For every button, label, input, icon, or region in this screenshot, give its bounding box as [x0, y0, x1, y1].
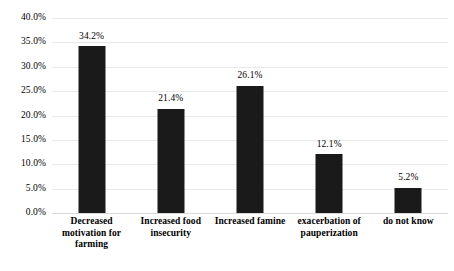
x-axis-category-label: Increased famine — [210, 216, 289, 228]
gridline — [52, 213, 448, 214]
bar[interactable] — [78, 46, 105, 213]
x-axis-category-label: Increased food insecurity — [131, 216, 210, 239]
y-axis-tick-label: 0.0% — [26, 208, 46, 218]
y-axis-tick-label: 15.0% — [21, 135, 46, 145]
bar-chart: 0.0%5.0%10.0%15.0%20.0%25.0%30.0%35.0%40… — [0, 0, 454, 271]
x-axis-category-label: do not know — [369, 216, 448, 228]
y-axis-tick-label: 25.0% — [21, 86, 46, 96]
bar-slot: 5.2% — [369, 18, 448, 213]
y-axis-tick-label: 40.0% — [21, 13, 46, 23]
bar-slot: 26.1% — [210, 18, 289, 213]
bar-value-label: 5.2% — [398, 173, 418, 183]
bar[interactable] — [316, 154, 343, 213]
bar-value-label: 34.2% — [79, 32, 104, 42]
bar-value-label: 26.1% — [237, 71, 262, 81]
y-axis-tick-label: 30.0% — [21, 62, 46, 72]
x-axis: Decreased motivation for farmingIncrease… — [52, 216, 448, 271]
bar-slot: 21.4% — [131, 18, 210, 213]
bar[interactable] — [395, 188, 422, 213]
y-axis-tick-label: 35.0% — [21, 38, 46, 48]
y-axis-tick-label: 20.0% — [21, 111, 46, 121]
bar-value-label: 21.4% — [158, 94, 183, 104]
y-axis-tick-label: 10.0% — [21, 160, 46, 170]
bar-value-label: 12.1% — [317, 140, 342, 150]
bar[interactable] — [157, 109, 184, 213]
y-axis: 0.0%5.0%10.0%15.0%20.0%25.0%30.0%35.0%40… — [0, 0, 52, 271]
bar-slot: 12.1% — [290, 18, 369, 213]
bar[interactable] — [236, 86, 263, 213]
x-axis-category-label: Decreased motivation for farming — [52, 216, 131, 251]
bar-series: 34.2%21.4%26.1%12.1%5.2% — [52, 18, 448, 213]
y-axis-tick-label: 5.0% — [26, 184, 46, 194]
plot-area: 34.2%21.4%26.1%12.1%5.2% — [52, 18, 448, 213]
x-axis-category-label: exacerbation of pauperization — [290, 216, 369, 239]
bar-slot: 34.2% — [52, 18, 131, 213]
